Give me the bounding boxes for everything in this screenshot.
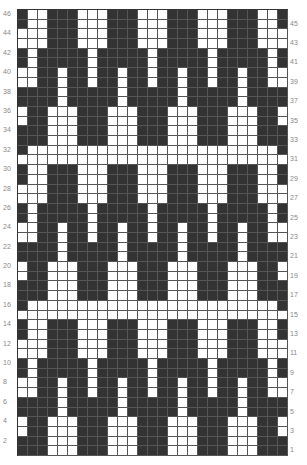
chart-cell	[108, 291, 118, 301]
chart-cell	[78, 223, 88, 233]
chart-cell	[168, 223, 178, 233]
chart-cell	[48, 107, 58, 117]
chart-cell	[108, 408, 118, 418]
chart-cell	[138, 417, 148, 427]
chart-cell	[258, 272, 268, 282]
chart-cell	[268, 349, 278, 359]
chart-cell	[108, 214, 118, 224]
chart-cell	[138, 185, 148, 195]
chart-cell	[58, 194, 68, 204]
chart-cell	[18, 49, 28, 59]
chart-cell	[208, 117, 218, 127]
chart-cell	[168, 378, 178, 388]
chart-cell	[268, 301, 278, 311]
row-label-right: 17	[290, 291, 298, 298]
chart-cell	[128, 165, 138, 175]
chart-cell	[48, 29, 58, 39]
chart-cell	[98, 107, 108, 117]
chart-cell	[218, 252, 228, 262]
chart-cell	[58, 291, 68, 301]
chart-cell	[278, 10, 288, 20]
chart-cell	[278, 378, 288, 388]
chart-cell	[58, 155, 68, 165]
chart-cell	[218, 165, 228, 175]
row-label-right: 21	[290, 252, 298, 259]
chart-cell	[168, 281, 178, 291]
chart-cell	[218, 214, 228, 224]
chart-cell	[108, 388, 118, 398]
chart-cell	[38, 78, 48, 88]
chart-cell	[228, 437, 238, 447]
chart-cell	[78, 204, 88, 214]
chart-cell	[158, 155, 168, 165]
chart-cell	[48, 146, 58, 156]
chart-cell	[138, 301, 148, 311]
chart-cell	[138, 29, 148, 39]
chart-cell	[58, 398, 68, 408]
chart-cell	[48, 427, 58, 437]
chart-cell	[128, 194, 138, 204]
chart-cell	[198, 398, 208, 408]
chart-cell	[108, 175, 118, 185]
chart-cell	[18, 155, 28, 165]
chart-cell	[208, 126, 218, 136]
chart-cell	[58, 320, 68, 330]
chart-cell	[238, 68, 248, 78]
row-label-left: 44	[3, 29, 11, 36]
chart-cell	[248, 330, 258, 340]
chart-cell	[158, 349, 168, 359]
chart-cell	[78, 68, 88, 78]
chart-cell	[208, 378, 218, 388]
chart-cell	[148, 185, 158, 195]
chart-cell	[158, 330, 168, 340]
row-label-right: 31	[290, 155, 298, 162]
chart-cell	[278, 388, 288, 398]
chart-cell	[38, 408, 48, 418]
chart-cell	[58, 214, 68, 224]
chart-cell	[228, 427, 238, 437]
chart-cell	[238, 194, 248, 204]
chart-cell	[18, 107, 28, 117]
chart-cell	[168, 320, 178, 330]
chart-cell	[48, 243, 58, 253]
chart-cell	[228, 301, 238, 311]
chart-cell	[78, 427, 88, 437]
chart-cell	[18, 378, 28, 388]
chart-cell	[268, 437, 278, 447]
chart-cell	[88, 126, 98, 136]
chart-cell	[268, 214, 278, 224]
chart-cell	[258, 437, 268, 447]
chart-cell	[268, 126, 278, 136]
chart-cell	[248, 165, 258, 175]
chart-cell	[88, 252, 98, 262]
chart-cell	[28, 349, 38, 359]
chart-cell	[278, 233, 288, 243]
chart-cell	[158, 20, 168, 30]
chart-cell	[28, 117, 38, 127]
chart-cell	[98, 388, 108, 398]
chart-cell	[188, 408, 198, 418]
chart-cell	[258, 330, 268, 340]
chart-cell	[28, 408, 38, 418]
chart-cell	[58, 262, 68, 272]
chart-cell	[258, 281, 268, 291]
chart-cell	[278, 49, 288, 59]
row-label-left: 18	[3, 281, 11, 288]
chart-cell	[128, 204, 138, 214]
chart-cell	[268, 146, 278, 156]
chart-cell	[78, 272, 88, 282]
chart-cell	[58, 185, 68, 195]
chart-cell	[248, 369, 258, 379]
chart-cell	[198, 369, 208, 379]
chart-cell	[78, 349, 88, 359]
chart-cell	[178, 155, 188, 165]
chart-cell	[108, 117, 118, 127]
chart-cell	[238, 398, 248, 408]
chart-cell	[138, 107, 148, 117]
chart-cell	[248, 320, 258, 330]
chart-cell	[248, 10, 258, 20]
chart-cell	[258, 185, 268, 195]
chart-cell	[248, 446, 258, 456]
chart-cell	[168, 185, 178, 195]
chart-cell	[188, 68, 198, 78]
